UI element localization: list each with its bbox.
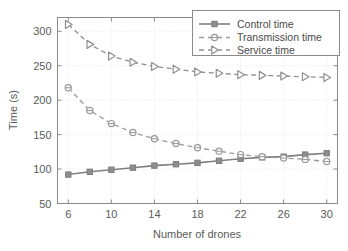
data-point-marker xyxy=(108,120,114,126)
data-point-marker xyxy=(173,65,180,73)
legend-label: Control time xyxy=(237,18,294,30)
data-point-marker xyxy=(109,167,114,172)
y-tick-label: 50 xyxy=(39,198,51,210)
data-point-marker xyxy=(259,71,266,79)
y-tick-label: 200 xyxy=(33,94,51,106)
data-point-marker xyxy=(324,151,329,156)
data-point-marker xyxy=(109,52,116,60)
data-point-marker xyxy=(130,165,135,170)
x-tick-label: 26 xyxy=(278,208,290,220)
data-point-marker xyxy=(173,162,178,167)
data-point-marker xyxy=(87,169,92,174)
data-point-marker xyxy=(87,40,94,48)
data-point-marker xyxy=(152,62,159,70)
data-point-marker xyxy=(212,21,217,26)
chart-canvas: 501001502002503006101418222630 Number of… xyxy=(0,0,348,251)
data-point-marker xyxy=(216,69,223,77)
data-point-marker xyxy=(259,154,265,160)
data-point-marker xyxy=(211,34,217,40)
data-point-marker xyxy=(302,156,308,162)
x-axis-title: Number of drones xyxy=(153,228,242,240)
chart-figure: 501001502002503006101418222630 Number of… xyxy=(0,0,348,251)
data-point-marker xyxy=(324,73,331,81)
x-tick-label: 10 xyxy=(105,208,117,220)
data-point-marker xyxy=(238,71,245,79)
y-tick-label: 100 xyxy=(33,163,51,175)
data-point-marker xyxy=(87,107,93,113)
y-tick-label: 250 xyxy=(33,60,51,72)
data-point-marker xyxy=(302,73,309,81)
y-tick-label: 150 xyxy=(33,129,51,141)
legend-label: Transmission time xyxy=(237,31,322,43)
data-point-marker xyxy=(195,160,200,165)
data-point-marker xyxy=(152,163,157,168)
data-point-marker xyxy=(151,136,157,142)
data-point-marker xyxy=(194,145,200,151)
y-axis-title: Time (s) xyxy=(7,90,19,130)
data-point-marker xyxy=(173,140,179,146)
data-point-marker xyxy=(65,85,71,91)
x-tick-label: 30 xyxy=(321,208,333,220)
data-point-marker xyxy=(66,172,71,177)
data-point-marker xyxy=(195,68,202,76)
x-tick-label: 14 xyxy=(148,208,160,220)
data-point-marker xyxy=(130,58,137,66)
x-tick-label: 18 xyxy=(191,208,203,220)
series-control-time xyxy=(66,151,330,178)
data-point-marker xyxy=(237,151,243,157)
x-tick-label: 6 xyxy=(65,208,71,220)
data-point-marker xyxy=(130,129,136,135)
y-tick-label: 300 xyxy=(33,25,51,37)
x-tick-label: 22 xyxy=(234,208,246,220)
data-point-marker xyxy=(216,158,221,163)
legend-label: Service time xyxy=(237,44,295,56)
data-point-marker xyxy=(281,155,287,161)
data-point-marker xyxy=(216,148,222,154)
data-point-marker xyxy=(324,158,330,164)
data-point-marker xyxy=(281,72,288,80)
chart-legend[interactable]: Control timeTransmission timeService tim… xyxy=(193,11,340,56)
